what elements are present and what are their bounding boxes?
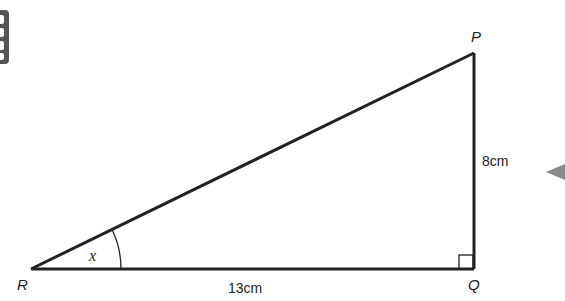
right-angle-marker: [459, 255, 473, 269]
side-label-RQ: 13cm: [228, 280, 262, 296]
angle-arc: [112, 230, 121, 270]
angle-label-x: x: [88, 247, 96, 264]
vertex-label-R: R: [17, 276, 28, 293]
triangle-diagram: P Q R 8cm 13cm x: [0, 0, 565, 301]
pointer-arrow-icon: [546, 164, 565, 180]
vertex-label-P: P: [471, 28, 481, 45]
vertex-label-Q: Q: [468, 276, 480, 293]
calculator-icon: [0, 10, 9, 64]
side-RP: [31, 53, 474, 269]
side-label-QP: 8cm: [482, 153, 508, 169]
